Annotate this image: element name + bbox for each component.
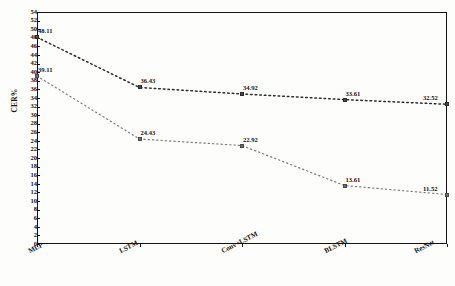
data-point-marker (240, 144, 244, 148)
data-point-label: 48.11 (38, 27, 52, 34)
data-point-marker (35, 74, 39, 78)
data-point-label: 11.52 (423, 185, 437, 192)
data-point-marker (138, 137, 142, 141)
data-point-label: 34.92 (243, 84, 258, 91)
data-point-label: 22.92 (243, 136, 258, 143)
data-point-label: 32.52 (423, 94, 438, 101)
data-point-marker (35, 35, 39, 39)
data-point-label: 13.61 (346, 176, 361, 183)
data-point-marker (343, 184, 347, 188)
data-point-label: 39.11 (38, 66, 52, 73)
data-point-marker (445, 102, 449, 106)
data-point-marker (343, 98, 347, 102)
data-point-label: 33.61 (346, 90, 361, 97)
data-point-label: 36.43 (141, 77, 156, 84)
data-point-marker (240, 92, 244, 96)
data-point-marker (445, 193, 449, 197)
series-lines (0, 0, 455, 286)
data-point-marker (138, 85, 142, 89)
data-point-label: 24.43 (141, 129, 156, 136)
cer-line-chart: CER% 02468101214161820222426283032343638… (0, 0, 455, 286)
